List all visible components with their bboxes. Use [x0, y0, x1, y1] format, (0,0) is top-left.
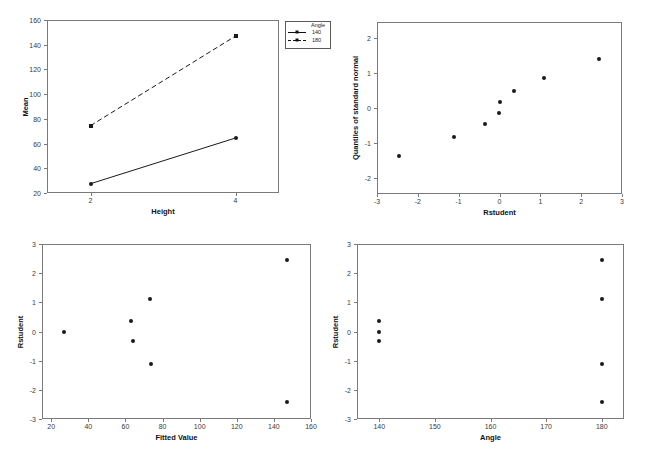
data-point: [600, 362, 604, 366]
x-tick-label: 170: [540, 423, 552, 430]
data-point: [377, 330, 381, 334]
y-tickmark: [354, 419, 357, 420]
rstudent-vs-angle-plot: 140150160170180-3-2-10123AngleRstudent: [0, 0, 655, 455]
data-point: [600, 400, 604, 404]
x-tickmark: [379, 419, 380, 422]
data-point: [600, 258, 604, 262]
x-axis-title: Angle: [480, 433, 501, 442]
y-tick-label: -1: [345, 357, 351, 364]
x-tickmark: [602, 419, 603, 422]
y-tick-label: -2: [345, 386, 351, 393]
y-tick-label: -3: [345, 416, 351, 423]
y-tickmark: [354, 390, 357, 391]
y-tickmark: [354, 361, 357, 362]
y-tick-label: 2: [347, 270, 351, 277]
x-tickmark: [435, 419, 436, 422]
y-axis-title: Rstudent: [331, 315, 340, 348]
x-tickmark: [491, 419, 492, 422]
y-tick-label: 1: [347, 299, 351, 306]
x-tickmark: [546, 419, 547, 422]
x-tick-label: 140: [373, 423, 385, 430]
data-point: [377, 319, 381, 323]
y-tickmark: [354, 244, 357, 245]
y-tickmark: [354, 332, 357, 333]
y-tickmark: [354, 302, 357, 303]
y-tick-label: 0: [347, 328, 351, 335]
x-tick-label: 180: [596, 423, 608, 430]
y-tickmark: [354, 273, 357, 274]
data-point: [377, 339, 381, 343]
x-tick-label: 150: [429, 423, 441, 430]
y-tick-label: 3: [347, 241, 351, 248]
x-tick-label: 160: [485, 423, 497, 430]
plot-frame: [357, 244, 624, 419]
data-point: [600, 297, 604, 301]
